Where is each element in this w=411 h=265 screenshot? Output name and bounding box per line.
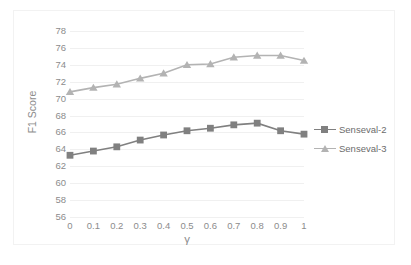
x-axis-tick-label: 0.7	[227, 220, 240, 231]
x-axis-tick-label: 0.5	[180, 220, 193, 231]
data-point-square-marker-icon	[137, 137, 144, 144]
plot-area	[70, 31, 304, 217]
y-axis-tick-label: 70	[55, 94, 66, 104]
x-axis-tick-label: 0.2	[110, 220, 123, 231]
y-axis-tick-label: 78	[55, 26, 66, 36]
legend-swatch-senseval-3	[314, 142, 336, 154]
legend-item-senseval-2[interactable]: Senseval-2	[314, 121, 406, 137]
triangle-marker-icon	[321, 145, 329, 152]
x-axis-tick-label: 0.1	[87, 220, 100, 231]
x-axis-tick-label: 0.3	[134, 220, 147, 231]
data-point-square-marker-icon	[67, 152, 74, 159]
x-axis-tick-labels: 00.10.20.30.40.50.60.70.80.91	[70, 220, 304, 234]
y-axis-tick-label: 76	[55, 43, 66, 53]
square-marker-icon	[321, 126, 328, 133]
data-point-square-marker-icon	[254, 120, 261, 127]
y-axis-tick-label: 74	[55, 60, 66, 70]
data-point-square-marker-icon	[277, 127, 284, 134]
y-axis-tick-label: 56	[55, 212, 66, 222]
y-axis-tick-label: 66	[55, 127, 66, 137]
x-axis-tick-label: 0	[67, 220, 72, 231]
y-axis-title: F1 Score	[26, 82, 38, 142]
y-axis-tick-label: 68	[55, 111, 66, 121]
data-point-square-marker-icon	[90, 148, 97, 155]
y-axis-tick-label: 62	[55, 161, 66, 171]
x-axis-tick-label: 0.9	[274, 220, 287, 231]
y-axis-tick-labels: 787674727068666462605856	[44, 31, 66, 217]
x-axis-tick-label: 1	[301, 220, 306, 231]
data-point-square-marker-icon	[207, 125, 214, 132]
chart-legend: Senseval-2 Senseval-3	[314, 121, 406, 159]
y-axis-tick-label: 64	[55, 144, 66, 154]
legend-label-senseval-2: Senseval-2	[339, 124, 387, 135]
legend-label-senseval-3: Senseval-3	[339, 143, 387, 154]
x-axis-tick-label: 0.4	[157, 220, 170, 231]
x-axis-title: γ	[70, 233, 304, 245]
data-point-square-marker-icon	[160, 132, 167, 139]
data-point-square-marker-icon	[184, 127, 191, 134]
legend-swatch-senseval-2	[314, 123, 336, 135]
legend-item-senseval-3[interactable]: Senseval-3	[314, 140, 406, 156]
y-axis-tick-label: 60	[55, 178, 66, 188]
x-axis-tick-label: 0.8	[251, 220, 264, 231]
y-axis-tick-label: 58	[55, 195, 66, 205]
x-axis-tick-label: 0.6	[204, 220, 217, 231]
data-point-square-marker-icon	[301, 131, 308, 138]
y-axis-tick-label: 72	[55, 77, 66, 87]
series-lines	[70, 31, 304, 217]
data-point-square-marker-icon	[113, 143, 120, 150]
gridline	[70, 217, 304, 218]
chart-container: 787674727068666462605856 F1 Score 00.10.…	[13, 10, 395, 245]
data-point-square-marker-icon	[230, 121, 237, 128]
